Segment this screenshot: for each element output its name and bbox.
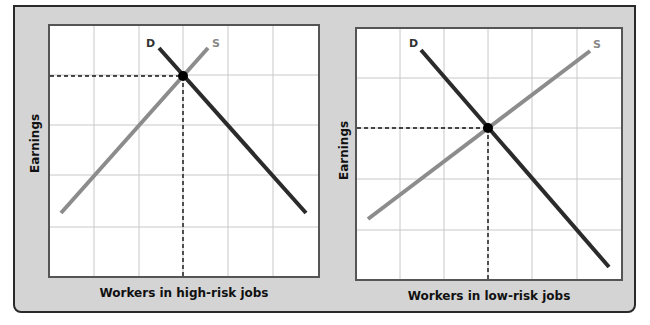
- charts-canvas: D S D S: [0, 0, 650, 325]
- plot-area: [356, 28, 622, 280]
- demand-label: D: [409, 37, 418, 50]
- x-axis-label-low-risk: Workers in low-risk jobs: [356, 289, 622, 303]
- supply-label: S: [593, 38, 601, 51]
- plot-area: [49, 25, 319, 277]
- chart-low-risk: D S: [356, 28, 622, 280]
- y-axis-label-low-risk: Earnings: [337, 124, 351, 180]
- y-axis-label-high-risk: Earnings: [28, 117, 42, 173]
- equilibrium-point: [178, 71, 188, 81]
- demand-label: D: [146, 37, 155, 50]
- supply-label: S: [212, 37, 220, 50]
- equilibrium-point: [483, 123, 493, 133]
- chart-high-risk: D S: [49, 25, 319, 277]
- x-axis-label-high-risk: Workers in high-risk jobs: [49, 286, 319, 300]
